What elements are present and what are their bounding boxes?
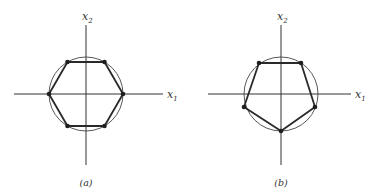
x1-axis-label: x1: [355, 88, 366, 103]
x1-axis-label: x1: [167, 88, 178, 103]
x2-axis-label: x2: [82, 10, 93, 25]
caption-a: (a): [79, 177, 92, 188]
x2-axis-label: x2: [277, 10, 288, 25]
caption-b: (b): [274, 177, 288, 188]
pentagon-vertices: [242, 61, 318, 134]
panel-b: x1 x2 (b): [208, 10, 366, 188]
panel-a: x1 x2 (a): [14, 10, 178, 188]
figure: x1 x2 (a) x1 x2 (b): [0, 0, 369, 196]
pentagon-polygon: [244, 63, 315, 131]
